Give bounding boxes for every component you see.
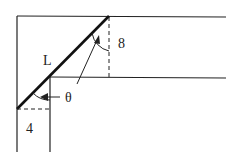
angle-arc-top [92,33,109,51]
label-angle-theta: θ [65,90,72,105]
label-width-8: 8 [118,36,125,51]
ladder-line [17,16,109,109]
outer-top-wall [17,16,226,17]
arrowhead-up-icon [94,35,100,44]
label-width-4: 4 [26,121,33,136]
corner-ladder-diagram: L 8 θ 4 [0,0,234,164]
label-ladder-L: L [43,53,52,68]
inner-horizontal-wall [50,77,226,78]
